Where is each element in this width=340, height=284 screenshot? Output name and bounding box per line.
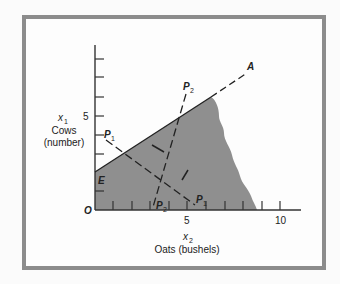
point-E-label: E: [98, 175, 105, 186]
svg-text:P: P: [183, 81, 190, 92]
svg-text:P: P: [196, 194, 203, 205]
P2-label-top: P 2: [183, 81, 194, 94]
svg-text:Oats (bushels): Oats (bushels): [154, 244, 219, 255]
line-EA-dashed: [211, 73, 247, 97]
diagram: 5 5 10 O E A P 1 P 1 P 2 P 2 x 1 Cows (n…: [0, 0, 340, 284]
P1-label-left: P 1: [104, 129, 115, 142]
svg-text:2: 2: [190, 87, 194, 94]
y-tick-label-5: 5: [83, 111, 89, 122]
svg-text:P: P: [104, 129, 111, 140]
svg-text:x: x: [57, 112, 64, 123]
svg-text:2: 2: [163, 206, 167, 213]
svg-text:x: x: [182, 231, 189, 242]
origin-label: O: [84, 205, 92, 216]
x-tick-label-10: 10: [275, 215, 287, 226]
feasible-region: [95, 97, 257, 210]
svg-text:Cows: Cows: [51, 125, 76, 136]
svg-text:1: 1: [64, 118, 68, 125]
point-A-label: A: [246, 61, 254, 72]
x-axis-title: x 2 Oats (bushels): [154, 231, 219, 255]
svg-text:2: 2: [189, 237, 193, 244]
svg-text:1: 1: [111, 135, 115, 142]
x-tick-label-5: 5: [184, 215, 190, 226]
svg-text:1: 1: [203, 200, 207, 207]
svg-text:P: P: [156, 200, 163, 211]
y-axis-title: x 1 Cows (number): [44, 112, 85, 148]
svg-text:(number): (number): [44, 137, 85, 148]
